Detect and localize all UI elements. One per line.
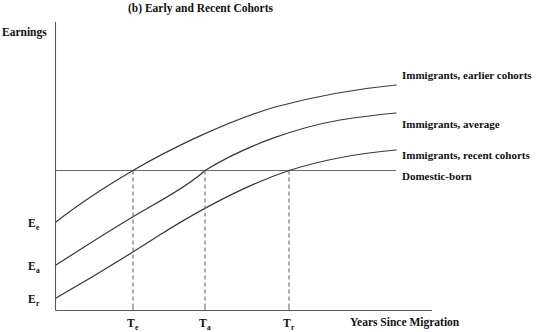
y-tick-label-earlier: E e [28,217,40,232]
figure-panel: (b) Early and Recent Cohorts Earnings T … [0,0,553,332]
x-tick-label-average: T a [199,317,211,332]
y-tick-label-recent: E r [28,293,40,308]
y-tick-sub-recent: r [36,299,40,308]
y-tick-base-average: E [28,260,36,272]
y-tick-base-earlier: E [28,217,36,229]
series-label-recent-cohorts: Immigrants, recent cohorts [402,149,531,161]
curve-average [56,113,396,265]
series-label-average: Immigrants, average [402,118,500,130]
y-tick-sub-average: a [36,266,40,275]
series-label-domestic-born: Domestic-born [402,170,472,182]
x-tick-base-average: T [199,317,207,329]
x-tick-sub-recent: r [291,323,295,332]
y-tick-label-average: E a [28,260,40,275]
x-tick-label-recent: T r [283,317,295,332]
x-axis-label: Years Since Migration [350,316,460,329]
x-tick-base-recent: T [283,317,291,329]
x-tick-label-earlier: T e [127,317,139,332]
x-tick-sub-earlier: e [135,323,139,332]
y-tick-sub-earlier: e [36,223,40,232]
x-tick-sub-average: a [207,323,211,332]
curve-recent-cohorts [56,150,396,298]
y-axis-label: Earnings [2,26,47,39]
curve-earlier-cohorts [56,85,396,222]
earnings-profile-chart: (b) Early and Recent Cohorts Earnings T … [0,0,553,332]
chart-title: (b) Early and Recent Cohorts [128,2,274,15]
y-tick-base-recent: E [28,293,36,305]
series-label-earlier-cohorts: Immigrants, earlier cohorts [402,69,532,81]
x-tick-base-earlier: T [127,317,135,329]
